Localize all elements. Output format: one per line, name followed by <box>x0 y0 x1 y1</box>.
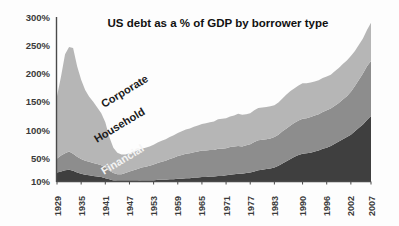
x-tick-label: 1965 <box>197 196 207 216</box>
x-tick-label: 1977 <box>246 196 256 216</box>
x-tick-label: 2007 <box>367 196 377 216</box>
x-tick-label: 1953 <box>149 196 159 216</box>
y-axis-ticks: 300%250%200%150%100%50%10% <box>26 12 51 187</box>
chart-container: 300%250%200%150%100%50%10% 1929193519411… <box>0 0 399 226</box>
y-tick-label: 200% <box>26 68 51 79</box>
x-tick-label: 1983 <box>270 196 280 216</box>
x-tick-label: 1990 <box>298 196 308 216</box>
x-tick-label: 1929 <box>53 196 63 216</box>
x-tick-label: 2002 <box>346 196 356 216</box>
y-tick-label: 10% <box>31 176 51 187</box>
y-tick-label: 300% <box>26 12 51 23</box>
x-tick-label: 1996 <box>322 196 332 216</box>
y-tick-label: 250% <box>26 40 51 51</box>
y-tick-label: 150% <box>26 96 51 107</box>
x-tick-label: 1935 <box>77 196 87 216</box>
chart-title: US debt as a % of GDP by borrower type <box>108 17 329 29</box>
stacked-area-chart: 300%250%200%150%100%50%10% 1929193519411… <box>0 0 399 226</box>
x-tick-label: 1959 <box>173 196 183 216</box>
y-tick-label: 50% <box>31 153 51 164</box>
x-tick-label: 1971 <box>222 196 232 216</box>
y-tick-label: 100% <box>26 125 51 136</box>
x-tick-label: 1941 <box>101 196 111 216</box>
x-tick-label: 1947 <box>125 196 135 216</box>
series-label-corporate: Corporate <box>99 72 150 109</box>
x-axis-ticks: 1929193519411947195319591965197119771983… <box>53 182 377 217</box>
